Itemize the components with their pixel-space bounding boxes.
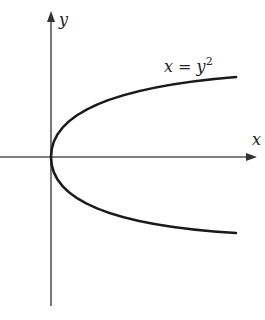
x-axis-arrow-icon (246, 153, 257, 161)
parabola-curve (51, 77, 236, 233)
x-axis (0, 153, 257, 161)
equation-exponent: 2 (206, 55, 213, 68)
parabola-diagram: y x x = y2 (0, 0, 265, 320)
x-axis-label: x (252, 130, 261, 149)
equation-label: x = y2 (164, 55, 213, 76)
y-axis-arrow-icon (47, 11, 55, 22)
y-axis-label: y (58, 10, 69, 29)
